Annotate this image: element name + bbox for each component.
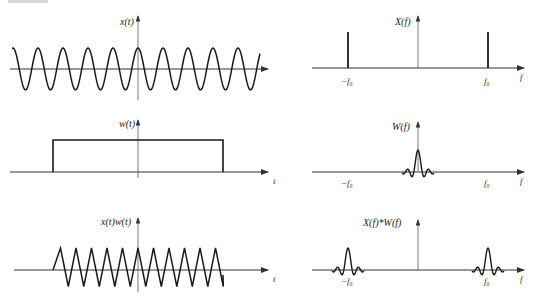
sinc-at-pos-f0 bbox=[472, 248, 504, 275]
tick-neg-f0: −f₀ bbox=[341, 276, 353, 286]
ylabel-X: X(f) bbox=[394, 16, 411, 28]
panel-X-f: X(f) −f₀ f₀ f bbox=[312, 16, 524, 86]
tick-neg-f0: −f₀ bbox=[341, 76, 353, 86]
panel-w-t: w(t) t bbox=[10, 118, 276, 186]
tick-pos-f0: f₀ bbox=[484, 276, 490, 286]
ylabel-XW: X(f)*W(f) bbox=[362, 217, 402, 229]
panel-W-f: W(f) −f₀ f₀ f bbox=[312, 121, 524, 188]
xlabel-f: f bbox=[520, 274, 524, 284]
tick-pos-f0: f₀ bbox=[484, 178, 490, 188]
xlabel-f: f bbox=[520, 176, 524, 186]
panel-x-t: x(t) bbox=[10, 16, 268, 100]
sinc-at-neg-f0 bbox=[332, 248, 364, 275]
ylabel-xw: x(t)w(t) bbox=[100, 216, 132, 228]
ylabel-x: x(t) bbox=[119, 16, 135, 28]
xlabel-f: f bbox=[520, 72, 524, 82]
xlabel-t: t bbox=[273, 274, 276, 284]
ylabel-W: W(f) bbox=[392, 121, 410, 133]
ylabel-w: w(t) bbox=[119, 118, 136, 130]
panel-XW-f: X(f)*W(f) −f₀ f₀ f bbox=[312, 217, 524, 286]
tick-neg-f0: −f₀ bbox=[341, 178, 353, 188]
tick-pos-f0: f₀ bbox=[484, 76, 490, 86]
panel-xw-t: x(t)w(t) t bbox=[14, 216, 276, 292]
windowing-diagram: x(t) X(f) −f₀ f₀ f w(t) t W(f) −f₀ f₀ f … bbox=[0, 0, 534, 300]
xlabel-t: t bbox=[273, 176, 276, 186]
